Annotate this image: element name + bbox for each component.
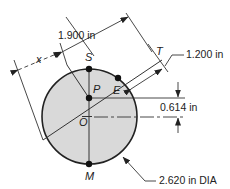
point-e-dot: [115, 75, 121, 81]
left-extension-line: [14, 60, 43, 140]
diameter-label: 2.620 in DIA: [159, 174, 217, 186]
circle-geometry-diagram: x 1.900 in 1.200 in 0.614 in 2.620 in DI…: [0, 0, 230, 189]
point-s-dot: [86, 66, 92, 72]
label-s: S: [85, 51, 93, 63]
top-extension-line: [60, 43, 67, 65]
offset-dimension-label: 1.200 in: [186, 48, 224, 60]
offset-leader: [165, 55, 184, 66]
diagonal-dimension-label: 1.900 in: [58, 29, 96, 41]
x-label: x: [35, 53, 42, 65]
label-e: E: [113, 84, 121, 96]
label-o: O: [79, 116, 88, 128]
vertical-dimension-label: 0.614 in: [160, 101, 198, 113]
diag-dim-extension-right: [126, 13, 152, 52]
label-t: T: [156, 45, 164, 57]
point-m-dot: [86, 161, 92, 167]
diameter-leader: [123, 157, 156, 181]
offset-dimension-line: [131, 69, 162, 89]
point-p-dot: [86, 95, 92, 101]
label-p: P: [93, 83, 101, 95]
label-m: M: [85, 170, 95, 182]
